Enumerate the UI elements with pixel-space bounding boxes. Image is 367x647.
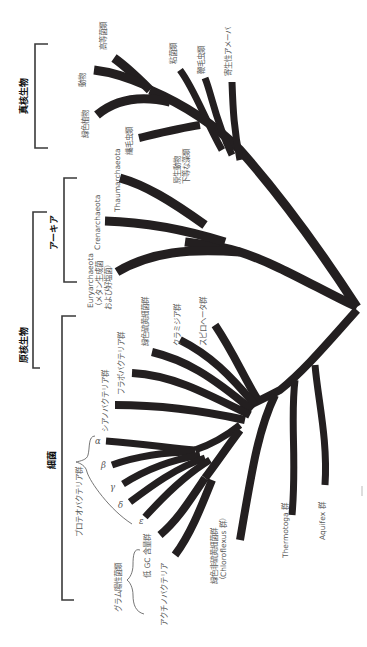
label-alpha: α <box>95 436 101 446</box>
label-aquifex: Aquifex 群 <box>317 501 327 540</box>
bracket-bacteria <box>62 316 76 600</box>
label-parasitic-amoebae: 寄生性アメーバ <box>223 26 233 76</box>
label-chloroflexus: 緑色非硫黄細菌群 <box>209 527 219 584</box>
phylogenetic-tree: 真核生物 アーキア 原核生物 細菌 高等菌類 動物 緑色植物 繊毛虫類 粘菌類 … <box>0 0 367 647</box>
branch-aquifex <box>315 365 326 485</box>
label-lower-algae: 下等な藻類 <box>181 148 191 184</box>
label-actinobacteria: アクチノバクテリア <box>160 563 169 626</box>
label-delta: δ <box>118 500 123 510</box>
branch-thermotoga <box>292 380 295 515</box>
group-label-eukaryota: 真核生物 <box>18 78 29 114</box>
label-epsilon: ε <box>139 516 144 526</box>
branch-thaumarchaeota <box>120 178 205 225</box>
label-chloroflexus-genus: （Chloroflexus 群） <box>218 514 228 584</box>
label-euryarchaeota: Euryarchaeota <box>86 253 95 308</box>
brace-gram-positive <box>127 550 144 614</box>
label-higher-fungi: 高等菌類 <box>98 21 108 50</box>
label-spirochetes: スピロヘータ群 <box>198 296 208 346</box>
label-protozoa: 原生動物 <box>172 155 182 184</box>
archaea-labels: Thaumarchaeota Crenarchaeota Euryarchaeo… <box>86 148 122 310</box>
label-thaumarchaeota: Thaumarchaeota <box>113 148 122 213</box>
label-slime-molds: 粘菌類 <box>168 42 178 64</box>
bracket-prokaryota <box>33 212 47 368</box>
branch-euryarchaeota <box>117 251 240 272</box>
label-low-gc: 低 GC 含量群 <box>142 533 152 578</box>
group-label-prokaryota: 原核生物 <box>18 327 29 363</box>
label-cyanobacteria: シアノバクテリア群 <box>100 369 110 432</box>
group-label-bacteria: 細菌 <box>46 451 57 469</box>
label-gram-positive: グラム陽性菌類 <box>113 562 123 612</box>
branch-alpha <box>106 441 195 450</box>
label-chlamydiae: クラミジア群 <box>172 303 182 346</box>
label-crenarchaeota: Crenarchaeota <box>93 195 102 250</box>
label-flavobacteria: フラボバクテリア群 <box>116 331 126 395</box>
label-ciliates: 繊毛虫類 <box>124 126 134 155</box>
label-animals: 動物 <box>77 72 87 87</box>
label-green-sulfur: 緑色硫黄細菌群 <box>140 296 150 346</box>
branch-crenarchaeota <box>105 221 225 242</box>
label-flagellates: 鞭毛虫類 <box>196 45 206 74</box>
bracket-eukaryota <box>35 44 48 148</box>
label-thermotoga: Thermotoga 群 <box>280 502 290 559</box>
branch-green-plants <box>97 99 170 115</box>
group-labels: 真核生物 アーキア 原核生物 細菌 <box>18 78 59 469</box>
bracket-archaea <box>64 178 77 282</box>
label-beta: β <box>100 460 106 470</box>
branch-eukaryota-trunk <box>150 90 357 307</box>
group-label-archaea: アーキア <box>49 215 59 250</box>
label-green-plants: 緑色植物 <box>80 109 90 138</box>
brackets <box>33 44 77 600</box>
branch-ciliates <box>139 125 200 138</box>
label-proteobacteria: プロテオバクテリア群 <box>74 466 84 537</box>
label-gamma: γ <box>110 482 116 492</box>
label-euryarchaeota-halophiles: および好塩菌） <box>103 261 113 310</box>
label-euryarchaeota-methanogens: （メタン生成菌 <box>94 260 104 310</box>
